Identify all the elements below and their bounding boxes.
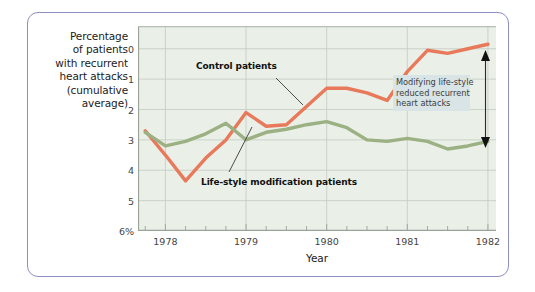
callout-line: heart attacks — [396, 98, 467, 109]
y-tick-label: 3 — [108, 134, 134, 145]
y-tick-label: 0 — [108, 43, 134, 54]
x-tick-label: 1979 — [234, 236, 258, 247]
x-axis-tick-labels: 19781979198019811982 — [138, 236, 496, 252]
series-label-lifestyle: Life-style modification patients — [201, 177, 357, 187]
x-tick-label: 1981 — [395, 236, 419, 247]
x-tick-label: 1980 — [315, 236, 339, 247]
plot-area — [138, 26, 496, 231]
x-tick-label: 1978 — [153, 236, 177, 247]
y-tick-label: 1 — [108, 74, 134, 85]
series-label-control: Control patients — [196, 61, 277, 71]
x-tick-label: 1982 — [476, 236, 500, 247]
series-line-lifestyle — [145, 122, 488, 149]
callout-annotation: Modifying life-style reduced recurrent h… — [393, 75, 470, 111]
y-tick-label: 5 — [108, 195, 134, 206]
callout-line: reduced recurrent — [396, 88, 467, 99]
callout-line: Modifying life-style — [396, 77, 467, 88]
x-axis-title: Year — [138, 252, 496, 264]
chart-canvas — [138, 26, 496, 231]
y-tick-label: 6% — [108, 226, 134, 237]
y-axis-tick-labels: 6%543210 — [104, 26, 134, 231]
y-tick-label: 2 — [108, 104, 134, 115]
y-tick-label: 4 — [108, 165, 134, 176]
